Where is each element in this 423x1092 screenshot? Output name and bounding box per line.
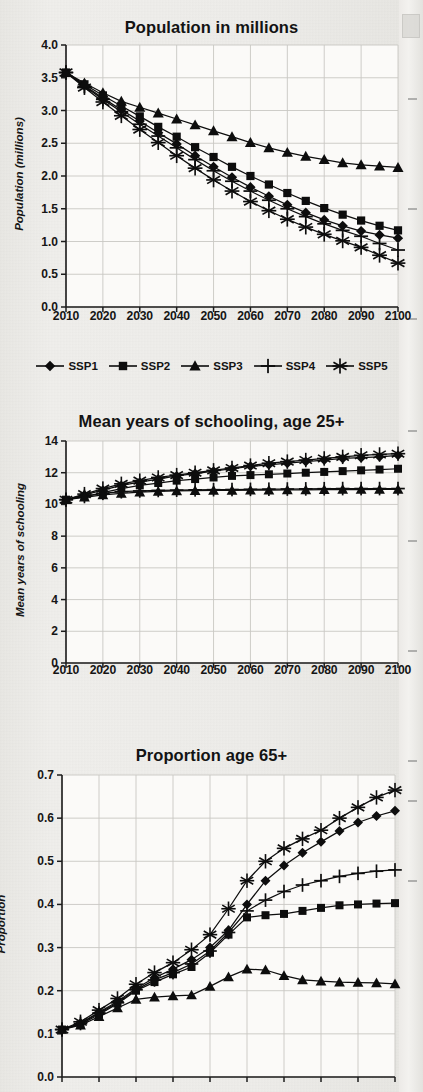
- x-tick-label: 2070: [268, 663, 306, 677]
- asterisk-marker: [325, 358, 355, 374]
- x-tick-label: 2010: [47, 663, 85, 677]
- x-tick-label: 2020: [84, 663, 122, 677]
- legend-item-ssp4: SSP4: [253, 358, 315, 374]
- x-tick-label: 2040: [158, 663, 196, 677]
- x-axis-labels-population: 2010202020302040205020602070208020902100: [0, 309, 423, 325]
- legend-label: SSP4: [286, 360, 315, 372]
- x-tick-label: 2020: [84, 309, 122, 323]
- x-tick-label: 2100: [379, 663, 417, 677]
- x-tick-label: 2050: [195, 663, 233, 677]
- svg-text:3.5: 3.5: [41, 71, 58, 85]
- svg-text:4: 4: [51, 593, 58, 607]
- svg-text:0.7: 0.7: [37, 768, 54, 782]
- svg-text:2.0: 2.0: [41, 169, 58, 183]
- x-tick-label: 2090: [342, 663, 380, 677]
- svg-text:0.0: 0.0: [37, 1070, 54, 1084]
- svg-text:0.5: 0.5: [41, 267, 58, 281]
- y-axis-label-schooling: Mean years of schooling: [14, 483, 26, 617]
- svg-text:14: 14: [45, 434, 59, 448]
- chart-canvas-population: 0.00.51.01.52.02.53.03.54.0: [0, 37, 423, 327]
- figure-population: Population in millions Population (milli…: [0, 0, 423, 390]
- figure-schooling: Mean years of schooling, age 25+ Mean ye…: [0, 390, 423, 720]
- triangle-marker: [180, 358, 210, 374]
- svg-text:2: 2: [51, 624, 58, 638]
- legend-label: SSP2: [141, 360, 170, 372]
- x-tick-label: 2080: [305, 309, 343, 323]
- svg-text:8: 8: [51, 529, 58, 543]
- x-tick-label: 2090: [342, 309, 380, 323]
- svg-text:0.3: 0.3: [37, 941, 54, 955]
- x-tick-label: 2100: [379, 309, 417, 323]
- svg-text:2.5: 2.5: [41, 136, 58, 150]
- plot-area-population: Population (millions) 0.00.51.01.52.02.5…: [0, 37, 423, 327]
- plot-area-schooling: Mean years of schooling 02468101214 2010…: [0, 431, 423, 681]
- svg-text:6: 6: [51, 561, 58, 575]
- legend-item-ssp3: SSP3: [180, 358, 242, 374]
- svg-text:0.2: 0.2: [37, 984, 54, 998]
- x-tick-label: 2030: [121, 663, 159, 677]
- legend-label: SSP3: [213, 360, 242, 372]
- square-marker: [108, 358, 138, 374]
- x-tick-label: 2060: [231, 663, 269, 677]
- legend-item-ssp1: SSP1: [35, 358, 97, 374]
- x-tick-label: 2050: [195, 309, 233, 323]
- svg-text:1.0: 1.0: [41, 235, 58, 249]
- legend-label: SSP5: [358, 360, 387, 372]
- x-tick-label: 2080: [305, 663, 343, 677]
- chart-title-schooling: Mean years of schooling, age 25+: [0, 390, 423, 431]
- x-tick-label: 2040: [158, 309, 196, 323]
- svg-text:0.1: 0.1: [37, 1027, 54, 1041]
- legend-item-ssp5: SSP5: [325, 358, 387, 374]
- svg-text:0.6: 0.6: [37, 811, 54, 825]
- x-axis-labels-schooling: 2010202020302040205020602070208020902100: [0, 663, 423, 679]
- figure-proportion-65plus: Proportion age 65+ Proportion 0.00.10.20…: [0, 720, 423, 1092]
- chart-title-population: Population in millions: [0, 0, 423, 37]
- legend-item-ssp2: SSP2: [108, 358, 170, 374]
- legend-label: SSP1: [68, 360, 97, 372]
- x-tick-label: 2060: [231, 309, 269, 323]
- y-axis-label-population: Population (millions): [13, 117, 25, 231]
- svg-text:1.5: 1.5: [41, 202, 58, 216]
- chart-canvas-proportion: 0.00.10.20.30.40.50.60.7: [0, 765, 423, 1092]
- y-axis-label-proportion: Proportion: [0, 895, 7, 954]
- svg-text:0.4: 0.4: [37, 897, 54, 911]
- chart-canvas-schooling: 02468101214: [0, 431, 423, 681]
- svg-text:0.5: 0.5: [37, 854, 54, 868]
- svg-text:10: 10: [45, 497, 59, 511]
- x-tick-label: 2010: [47, 309, 85, 323]
- x-tick-label: 2070: [268, 309, 306, 323]
- plus-marker: [253, 358, 283, 374]
- x-tick-label: 2030: [121, 309, 159, 323]
- chart-title-proportion: Proportion age 65+: [0, 720, 423, 765]
- diamond-marker: [35, 358, 65, 374]
- svg-text:12: 12: [45, 466, 59, 480]
- svg-text:4.0: 4.0: [41, 38, 58, 52]
- chart-legend: SSP1SSP2SSP3SSP4SSP5: [0, 358, 423, 374]
- svg-text:3.0: 3.0: [41, 104, 58, 118]
- plot-area-proportion: Proportion 0.00.10.20.30.40.50.60.7: [0, 765, 423, 1092]
